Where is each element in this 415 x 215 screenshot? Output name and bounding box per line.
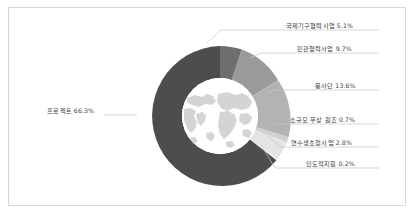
- slice-label-인도적지원: 인도적지원 0.2%: [306, 161, 355, 167]
- globe-graphic: [182, 78, 258, 154]
- slice-label-국제기구협력사업: 국제기구협력사업 5.1%: [286, 23, 353, 29]
- slice-label-소규모-무상-원조: 소규모 무상 원조 0.7%: [290, 117, 355, 123]
- slice-label-프로젝트: 프로젝트 66.3%: [19, 108, 94, 114]
- slice-label-민관협력사업: 민관협력사업 9.7%: [297, 46, 352, 52]
- slice-label-연수생초청사업: 연수생초청사업 2.8%: [291, 140, 352, 146]
- chart-frame: 국제기구협력사업 5.1% 민관협력사업 9.7% 봉사단 13.6% 소규모 …: [8, 7, 406, 206]
- slice-label-봉사단: 봉사단 13.6%: [315, 83, 356, 89]
- globe-world-map-icon: [182, 78, 258, 154]
